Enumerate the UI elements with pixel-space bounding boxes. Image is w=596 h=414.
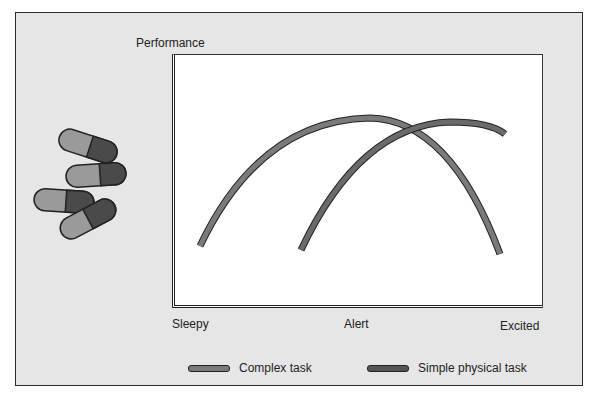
x-tick-excited: Excited [500,319,539,333]
simple-physical-task-curve [301,122,505,250]
x-tick-alert: Alert [344,317,369,331]
legend-item-simple-physical-task: Simple physical task [367,361,527,375]
simple-task-swatch-icon [367,365,409,372]
legend-item-complex-task: Complex task [188,361,312,375]
complex-task-curve [200,118,500,254]
x-tick-sleepy: Sleepy [172,317,209,331]
capsule-pills-icon [30,128,140,243]
legend-label: Simple physical task [418,361,527,375]
legend-label: Complex task [239,361,312,375]
complex-task-swatch-icon [188,365,230,372]
